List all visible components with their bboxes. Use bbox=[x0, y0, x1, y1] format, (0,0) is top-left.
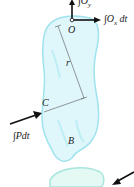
p-impulse-label: ∫Pdt bbox=[13, 130, 30, 141]
b-label: B bbox=[68, 135, 74, 146]
ox-impulse-label: ∫Ox dt bbox=[104, 13, 127, 27]
oy-impulse-label: ∫Oy bbox=[78, 0, 91, 9]
r-label: r bbox=[66, 57, 70, 68]
o-point-label: O bbox=[68, 24, 75, 35]
impulse-diagram bbox=[0, 0, 134, 187]
p-arrow bbox=[10, 115, 36, 124]
c-point-label: C bbox=[42, 97, 49, 108]
o-pin bbox=[70, 18, 74, 22]
second-body bbox=[50, 168, 104, 187]
